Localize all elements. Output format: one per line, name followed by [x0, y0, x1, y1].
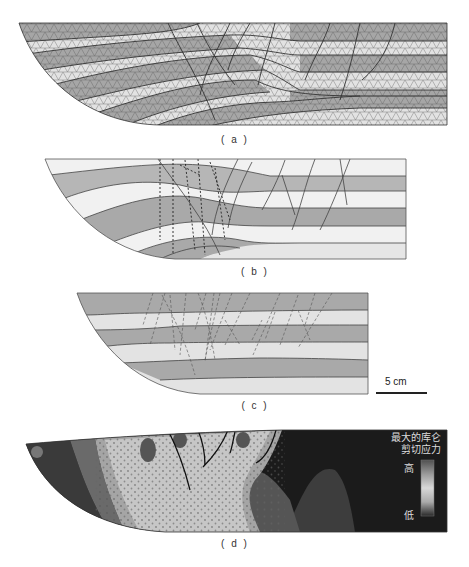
- legend-title-line2: 剪切应力: [381, 444, 441, 455]
- stress-colorbar: [421, 460, 434, 516]
- panel-d-coulomb-stress-map: [0, 0, 469, 567]
- legend-title-line1: 最大的库仑: [381, 432, 441, 443]
- caption-d: ( d ): [215, 538, 255, 549]
- legend-high-label: 高: [404, 460, 414, 475]
- legend-low-label: 低: [404, 507, 414, 522]
